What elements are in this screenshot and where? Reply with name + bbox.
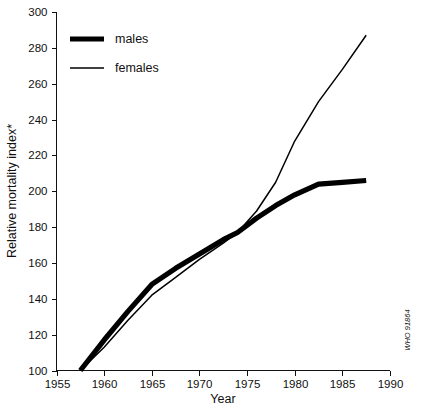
x-axis-title: Year [210,392,235,406]
x-tick-label: 1985 [330,378,356,390]
source-credit-label: WHO 91864 [403,309,412,350]
x-tick-label: 1960 [92,378,118,390]
x-tick-label: 1990 [378,378,404,390]
x-tick-label: 1955 [45,378,71,390]
y-tick-label: 180 [28,221,47,233]
y-tick-label: 220 [28,149,47,161]
y-tick-label: 120 [28,329,47,341]
y-tick-label: 140 [28,293,47,305]
y-tick-label: 300 [28,6,47,18]
y-tick-label: 200 [28,185,47,197]
y-tick-label: 240 [28,114,47,126]
x-tick-label: 1970 [187,378,213,390]
y-tick-label: 160 [28,257,47,269]
chart-background [0,0,421,411]
y-tick-label: 100 [28,365,47,377]
legend-label-males: males [115,32,148,46]
y-tick-label: 260 [28,78,47,90]
y-axis-title: Relative mortality index* [5,124,19,258]
chart-figure: 100120140160180200220240260280300 195519… [0,0,421,411]
x-tick-label: 1965 [140,378,166,390]
x-tick-label: 1975 [235,378,261,390]
mortality-line-chart: 100120140160180200220240260280300 195519… [0,0,421,411]
y-tick-label: 280 [28,42,47,54]
x-tick-label: 1980 [283,378,309,390]
legend-label-females: females [115,61,159,75]
